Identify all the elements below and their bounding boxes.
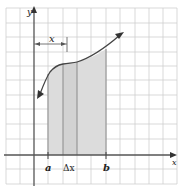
x-bracket-label: x <box>49 33 55 44</box>
label-a: a <box>45 162 51 173</box>
x-axis-label: x <box>172 158 177 167</box>
bracket-arrow-left-icon <box>35 42 40 46</box>
bracket-arrow-right-icon <box>61 42 66 46</box>
delta-x-slice <box>63 62 77 155</box>
label-delta-x: Δx <box>63 163 75 173</box>
label-b: b <box>103 162 110 173</box>
area-under-curve-diagram: y x x a Δx b <box>0 0 180 191</box>
y-axis-label: y <box>26 7 33 17</box>
